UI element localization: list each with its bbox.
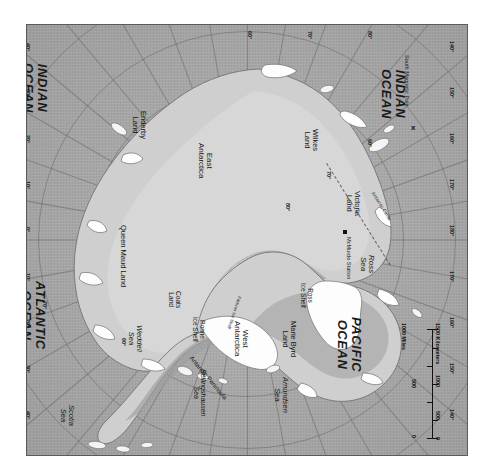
longitude-tick-right: 150°: [449, 87, 455, 98]
label-south-magnetic-pole: South Magnetic Pole: [403, 55, 409, 107]
label-line-2: Land: [303, 129, 311, 151]
longitude-tick-top: 60°: [247, 31, 253, 39]
scale-miles-unit: 1000 Miles: [401, 323, 407, 350]
label-wilkes-land: Wilkes Land: [303, 129, 319, 151]
label-west-antarctica: West Antarctica: [232, 321, 249, 357]
label-mcmurdo-station: McMurdo Station: [345, 237, 351, 279]
longitude-tick-left: 10°: [26, 273, 31, 281]
latitude-tick-80: 80°: [285, 203, 291, 211]
label-amundsen-sea: Amundsen Sea: [273, 377, 289, 413]
label-line-1: Enderby: [139, 111, 147, 139]
label-line-1: Amundsen: [281, 377, 289, 413]
label-line-2: Sea: [273, 377, 281, 413]
label-line-1: INDIAN: [35, 63, 49, 113]
longitude-tick-left: 10°: [26, 181, 31, 189]
map-scale-bar: 1000 Miles 500 0 1500 Kilometers 1000 50…: [405, 325, 461, 443]
label-line-2: Sea: [127, 325, 135, 352]
longitude-tick-left: 30°: [26, 365, 31, 373]
latitude-tick-60: 60°: [367, 139, 373, 147]
label-line-1: Bellingshausen: [200, 369, 207, 416]
label-indian-ocean-top: INDIAN OCEAN: [26, 63, 49, 113]
scale-miles-tick: 0: [411, 435, 417, 438]
antarctica-map-page: INDIAN OCEAN INDIAN OCEAN ATLANTIC OCEAN…: [0, 0, 492, 475]
label-line-1: PACIFIC: [349, 317, 363, 372]
longitude-tick-top: 70°: [307, 31, 313, 39]
label-line-1: Victoria: [353, 191, 361, 216]
label-weddell-sea: Weddell Sea: [127, 325, 143, 352]
label-line-1: Coats: [174, 291, 181, 308]
label-line-1: Scotia: [67, 405, 75, 426]
label-queen-maud-land: Queen Maud Land: [119, 225, 127, 287]
label-line-2: OCEAN: [26, 281, 33, 350]
label-line-2: Ice Shelf: [300, 283, 307, 308]
longitude-tick-right: 140°: [449, 41, 455, 52]
label-line-2: Sea: [59, 405, 67, 426]
latitude-tick-extra: 70°: [42, 300, 48, 308]
label-east-antarctica: East Antarctica: [196, 143, 213, 179]
label-line-2: OCEAN: [26, 63, 35, 113]
label-victoria-land: Victoria Land: [345, 191, 361, 216]
label-line-2: Ice Shelf: [192, 317, 199, 342]
longitude-tick-left: 40°: [26, 43, 31, 51]
label-scotia-sea: Scotia Sea: [59, 405, 75, 426]
longitude-tick-left: 20°: [26, 135, 31, 143]
label-pacific-ocean: PACIFIC OCEAN: [336, 317, 363, 372]
longitude-tick-right: 170°: [449, 179, 455, 190]
label-line-1: Wilkes: [311, 129, 319, 151]
longitude-tick-top: 80°: [367, 31, 373, 39]
scale-tick: [433, 420, 438, 421]
label-line-2: Sea: [192, 369, 199, 416]
label-line-2: Land: [167, 291, 174, 308]
label-line-1: Weddell: [135, 325, 143, 352]
label-ross-sea: Ross Sea: [358, 255, 375, 273]
south-magnetic-pole-marker: x: [411, 123, 415, 132]
label-line-1: Marie Byrd: [289, 321, 297, 357]
label-line-2: Sea: [358, 255, 366, 273]
longitude-tick-right: 160°: [449, 133, 455, 144]
label-line-1: West: [241, 321, 249, 357]
label-line-2: OCEAN: [380, 69, 394, 119]
longitude-tick-left: 20°: [26, 319, 31, 327]
label-coats-land: Coats Land: [167, 291, 181, 308]
label-line-1: McMurdo Station: [345, 237, 351, 279]
label-marie-byrd-land: Marie Byrd Land: [281, 321, 297, 357]
label-line-1: East: [205, 143, 213, 179]
label-line-2: Land: [131, 111, 139, 139]
longitude-tick-left: 30°: [26, 89, 31, 97]
label-line-2: Antarctica: [196, 143, 204, 179]
latitude-tick-extra: 60°: [122, 338, 128, 346]
scale-tick: [427, 402, 433, 403]
label-ross-ice-shelf: Ross Ice Shelf: [300, 283, 313, 308]
label-line-2: Land: [345, 191, 353, 216]
map-frame: INDIAN OCEAN INDIAN OCEAN ATLANTIC OCEAN…: [26, 24, 468, 456]
scale-km-unit: 1500 Kilometers: [435, 323, 441, 364]
label-line-1: Queen Maud Land: [119, 225, 127, 287]
label-line-2: Antarctica: [232, 321, 240, 357]
longitude-tick-right: 180°: [449, 225, 455, 236]
label-enderby-land: Enderby Land: [131, 111, 147, 139]
longitude-tick-left: 40°: [26, 411, 31, 419]
longitude-tick-right: 170°: [449, 271, 455, 282]
label-bellingshausen-sea: Bellingshausen Sea: [192, 369, 207, 416]
label-atlantic-ocean: ATLANTIC OCEAN: [26, 281, 47, 350]
scale-km-tick: 1000: [435, 375, 441, 387]
scale-miles-tick: 500: [411, 379, 417, 388]
scale-km-tick: 500: [435, 411, 441, 420]
label-ronne-ice-shelf: Ronne Ice Shelf: [192, 317, 205, 342]
label-line-1: Ross: [306, 283, 313, 308]
scale-tick: [427, 366, 433, 367]
latitude-tick-70: 70°: [326, 171, 332, 179]
label-line-1: Ronne: [198, 317, 205, 342]
scale-km-tick: 0: [435, 437, 441, 440]
label-line-1: ATLANTIC: [33, 281, 47, 350]
label-line-1: Ross: [367, 255, 375, 273]
mcmurdo-station-marker: [343, 230, 347, 234]
label-line-2: Land: [281, 321, 289, 357]
label-line-1: South Magnetic Pole: [403, 55, 409, 107]
label-line-2: OCEAN: [336, 317, 350, 372]
longitude-tick-left: 0°: [26, 227, 31, 232]
